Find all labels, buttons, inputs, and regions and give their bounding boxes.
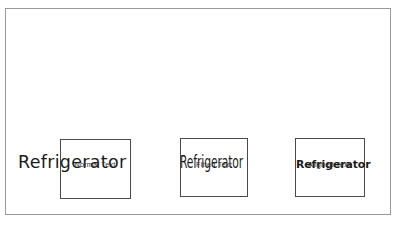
caption-fitted-text: Fitted Text (154, 160, 274, 169)
caption-aligned-text: Aligned Text (269, 160, 389, 169)
figure-canvas: Refrigerator Refrigerator Refrigerator N… (0, 0, 399, 227)
caption-normal-text: Normal Text (35, 160, 155, 169)
text-box-normal (60, 139, 131, 199)
